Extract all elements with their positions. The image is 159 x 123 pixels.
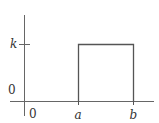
k-label: k: [10, 37, 17, 51]
b-label: b: [130, 108, 138, 122]
x-origin-label: 0: [29, 107, 37, 121]
a-label: a: [75, 108, 82, 122]
density-rectangle: [79, 45, 134, 102]
uniform-density-chart: k 0 0 a b: [0, 0, 159, 123]
y-zero-label: 0: [8, 83, 16, 97]
